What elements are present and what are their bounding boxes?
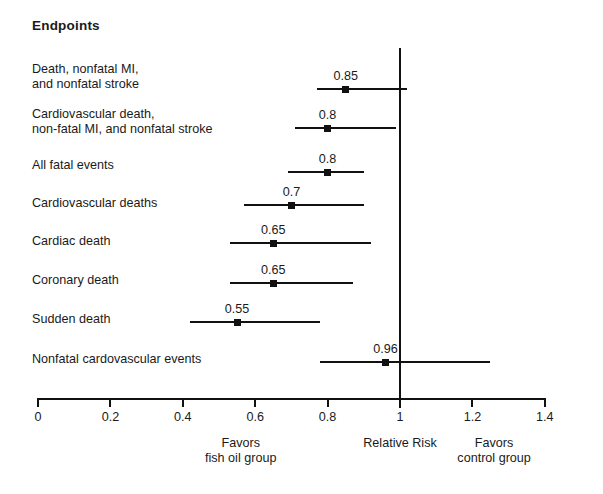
endpoint-label: Death, nonfatal MI,and nonfatal stroke	[32, 62, 139, 92]
x-axis-tick-label: 0.8	[319, 410, 337, 424]
confidence-interval-line	[295, 127, 396, 129]
x-axis-tick	[254, 398, 256, 407]
point-estimate-marker	[324, 169, 331, 176]
point-estimate-value: 0.8	[319, 152, 337, 166]
x-axis-tick	[544, 398, 546, 407]
favors-treatment-caption-line1: Favors	[221, 436, 260, 450]
x-axis-tick-label: 0	[34, 410, 41, 424]
x-axis-tick	[37, 398, 39, 407]
forest-plot-figure: Endpoints 0.850.80.80.70.650.650.550.960…	[0, 0, 603, 494]
favors-control-caption: Favorscontrol group	[457, 436, 531, 466]
endpoint-label-line2: non-fatal MI, and nonfatal stroke	[32, 122, 213, 137]
x-axis-tick-label: 1.2	[464, 410, 482, 424]
favors-treatment-caption-line2: fish oil group	[205, 451, 276, 466]
point-estimate-marker	[270, 240, 277, 247]
confidence-interval-line	[230, 282, 353, 284]
point-estimate-value: 0.65	[261, 263, 286, 277]
point-estimate-marker	[342, 86, 349, 93]
endpoint-label-line1: Cardiovascular deaths	[32, 196, 157, 210]
x-axis-title: Relative Risk	[363, 436, 436, 451]
point-estimate-value: 0.7	[283, 185, 301, 199]
confidence-interval-line	[230, 242, 371, 244]
confidence-interval-line	[244, 204, 363, 206]
x-axis-line	[38, 398, 545, 400]
x-axis-tick-label: 0.4	[174, 410, 192, 424]
endpoint-label-line1: Cardiac death	[32, 234, 110, 248]
endpoint-label: Coronary death	[32, 273, 119, 288]
endpoint-label-line1: Coronary death	[32, 273, 119, 287]
point-estimate-value: 0.55	[225, 302, 250, 316]
confidence-interval-line	[320, 361, 490, 363]
x-axis-tick	[182, 398, 184, 407]
point-estimate-value: 0.96	[373, 342, 398, 356]
confidence-interval-line	[317, 88, 408, 90]
x-axis-tick-label: 1	[396, 410, 403, 424]
point-estimate-marker	[382, 359, 389, 366]
endpoint-label-line1: All fatal events	[32, 158, 114, 172]
x-axis-tick-label: 0.6	[246, 410, 264, 424]
x-axis-tick	[399, 398, 401, 407]
x-axis-tick	[471, 398, 473, 407]
endpoint-label: Cardiac death	[32, 234, 110, 249]
endpoint-label-line1: Sudden death	[32, 312, 110, 326]
endpoint-label: Cardiovascular death,non-fatal MI, and n…	[32, 107, 213, 137]
x-axis-tick	[327, 398, 329, 407]
x-axis-tick-label: 0.2	[102, 410, 120, 424]
endpoint-label-line1: Nonfatal cardovascular events	[32, 352, 201, 366]
favors-control-caption-line2: control group	[457, 451, 531, 466]
point-estimate-value: 0.85	[333, 69, 358, 83]
x-axis-tick-label: 1.4	[536, 410, 554, 424]
endpoint-label: Nonfatal cardovascular events	[32, 352, 201, 367]
point-estimate-marker	[234, 319, 241, 326]
null-reference-line	[399, 48, 401, 408]
point-estimate-value: 0.8	[319, 108, 337, 122]
endpoint-label-line1: Cardiovascular death,	[32, 107, 155, 121]
endpoint-label: All fatal events	[32, 158, 114, 173]
favors-treatment-caption: Favorsfish oil group	[205, 436, 276, 466]
x-axis-title-line1: Relative Risk	[363, 436, 436, 450]
point-estimate-marker	[324, 125, 331, 132]
favors-control-caption-line1: Favors	[475, 436, 514, 450]
endpoint-label: Cardiovascular deaths	[32, 196, 157, 211]
x-axis-tick	[109, 398, 111, 407]
point-estimate-marker	[288, 202, 295, 209]
endpoint-label-line2: and nonfatal stroke	[32, 77, 139, 92]
endpoint-label: Sudden death	[32, 312, 110, 327]
point-estimate-marker	[270, 280, 277, 287]
confidence-interval-line	[190, 321, 320, 323]
point-estimate-value: 0.65	[261, 223, 286, 237]
endpoint-label-line1: Death, nonfatal MI,	[32, 62, 138, 76]
